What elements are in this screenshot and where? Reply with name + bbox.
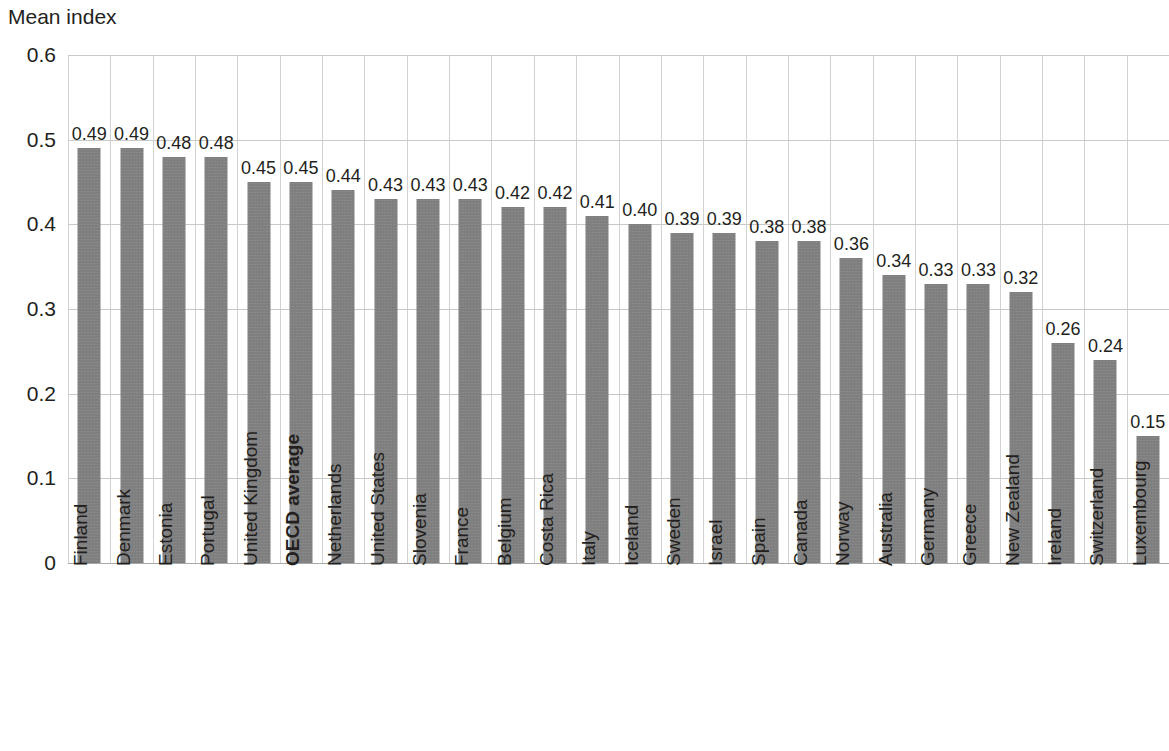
x-axis-label: Sweden — [664, 497, 683, 566]
y-tick-label: 0.1 — [0, 467, 56, 488]
x-axis-label: Belgium — [494, 497, 513, 566]
bar-slot[interactable]: 0.36 — [830, 55, 872, 563]
bar-value-label: 0.42 — [537, 184, 572, 202]
y-tick-label: 0 — [0, 552, 56, 573]
x-label-slot: Israel — [703, 566, 745, 751]
x-axis-label: United Kingdom — [240, 431, 259, 566]
x-label-slot: Portugal — [195, 566, 237, 751]
bar-value-label: 0.32 — [1003, 269, 1038, 287]
x-axis-label: Ireland — [1045, 508, 1064, 566]
bar-value-label: 0.48 — [199, 134, 234, 152]
bar-value-label: 0.38 — [792, 218, 827, 236]
bar-slot[interactable]: 0.38 — [746, 55, 788, 563]
x-axis-label: France — [452, 507, 471, 566]
x-axis-label: Estonia — [155, 503, 174, 566]
x-label-slot: Norway — [830, 566, 872, 751]
x-label-slot: Germany — [915, 566, 957, 751]
bar-slot[interactable]: 0.38 — [788, 55, 830, 563]
x-axis-label: Canada — [791, 499, 810, 566]
bar-slot[interactable]: 0.49 — [68, 55, 110, 563]
bar-value-label: 0.40 — [622, 201, 657, 219]
bar-value-label: 0.24 — [1088, 337, 1123, 355]
x-label-slot: Belgium — [491, 566, 533, 751]
x-label-slot: Greece — [957, 566, 999, 751]
bar-slot[interactable]: 0.48 — [195, 55, 237, 563]
x-axis-label: Netherlands — [325, 464, 344, 566]
x-axis-label: Iceland — [621, 505, 640, 566]
x-axis-label: Norway — [833, 502, 852, 566]
x-label-slot: Ireland — [1042, 566, 1084, 751]
x-label-slot: Iceland — [619, 566, 661, 751]
bar-value-label: 0.39 — [707, 210, 742, 228]
bar-value-label: 0.41 — [580, 193, 615, 211]
bar-chart-figure: Mean index 00.10.20.30.40.50.6 0.490.490… — [0, 0, 1169, 751]
y-tick-label: 0.5 — [0, 129, 56, 150]
bar-slot[interactable]: 0.33 — [957, 55, 999, 563]
x-label-slot: Luxembourg — [1127, 566, 1169, 751]
bar-slot[interactable]: 0.42 — [491, 55, 533, 563]
y-tick-label: 0.4 — [0, 213, 56, 234]
bar-slot[interactable]: 0.26 — [1042, 55, 1084, 563]
bar-value-label: 0.39 — [664, 210, 699, 228]
x-axis-label: Finland — [71, 504, 90, 566]
bar-slot[interactable]: 0.39 — [703, 55, 745, 563]
bar-value-label: 0.38 — [749, 218, 784, 236]
x-label-slot: Netherlands — [322, 566, 364, 751]
x-axis-label: Greece — [960, 504, 979, 566]
bar[interactable] — [586, 216, 609, 563]
bar-slot[interactable]: 0.39 — [661, 55, 703, 563]
bar-value-label: 0.36 — [834, 235, 869, 253]
bar-slot[interactable]: 0.43 — [407, 55, 449, 563]
bar[interactable] — [755, 241, 778, 563]
bar-slot[interactable]: 0.33 — [915, 55, 957, 563]
x-axis-label: OECD average — [282, 434, 301, 566]
bar[interactable] — [713, 233, 736, 563]
x-label-slot: Finland — [68, 566, 110, 751]
x-label-slot: Spain — [746, 566, 788, 751]
x-label-slot: France — [449, 566, 491, 751]
x-label-slot: Australia — [873, 566, 915, 751]
x-label-slot: United Kingdom — [237, 566, 279, 751]
bar-value-label: 0.34 — [876, 252, 911, 270]
x-label-slot: OECD average — [280, 566, 322, 751]
bar[interactable] — [78, 148, 101, 563]
bar-value-label: 0.45 — [241, 159, 276, 177]
bar-slot[interactable]: 0.41 — [576, 55, 618, 563]
x-label-slot: Slovenia — [407, 566, 449, 751]
bar-slot[interactable]: 0.43 — [449, 55, 491, 563]
bar-value-label: 0.49 — [72, 125, 107, 143]
x-axis-label: Portugal — [198, 495, 217, 566]
x-label-slot: United States — [364, 566, 406, 751]
bar-value-label: 0.48 — [156, 134, 191, 152]
x-label-slot: Denmark — [110, 566, 152, 751]
x-label-slot: Switzerland — [1084, 566, 1126, 751]
x-axis-label: New Zealand — [1002, 454, 1021, 566]
x-label-slot: Estonia — [153, 566, 195, 751]
x-axis-label: Australia — [875, 492, 894, 566]
bar-slot[interactable]: 0.48 — [153, 55, 195, 563]
x-label-slot: Sweden — [661, 566, 703, 751]
x-axis-label: Costa Rica — [536, 473, 555, 566]
y-tick-label: 0.6 — [0, 44, 56, 65]
bar-value-label: 0.33 — [919, 261, 954, 279]
y-axis-title: Mean index — [8, 4, 117, 30]
x-label-slot: Italy — [576, 566, 618, 751]
bar-value-label: 0.42 — [495, 184, 530, 202]
bar-value-label: 0.43 — [453, 176, 488, 194]
x-axis-label: Switzerland — [1087, 468, 1106, 566]
bar-value-label: 0.45 — [283, 159, 318, 177]
x-axis-label: Germany — [918, 488, 937, 566]
bar-slot[interactable]: 0.34 — [873, 55, 915, 563]
bar-slot[interactable]: 0.40 — [619, 55, 661, 563]
x-axis-label: Italy — [579, 531, 598, 566]
bar-slot[interactable]: 0.49 — [110, 55, 152, 563]
bar-value-label: 0.43 — [410, 176, 445, 194]
bar-value-label: 0.43 — [368, 176, 403, 194]
bar-value-label: 0.33 — [961, 261, 996, 279]
x-label-slot: Canada — [788, 566, 830, 751]
x-axis-category-labels: FinlandDenmarkEstoniaPortugalUnited King… — [68, 566, 1169, 751]
x-axis-label: Israel — [706, 520, 725, 566]
x-axis-label: Spain — [748, 517, 767, 566]
bar-value-label: 0.15 — [1130, 413, 1165, 431]
x-label-slot: Costa Rica — [534, 566, 576, 751]
